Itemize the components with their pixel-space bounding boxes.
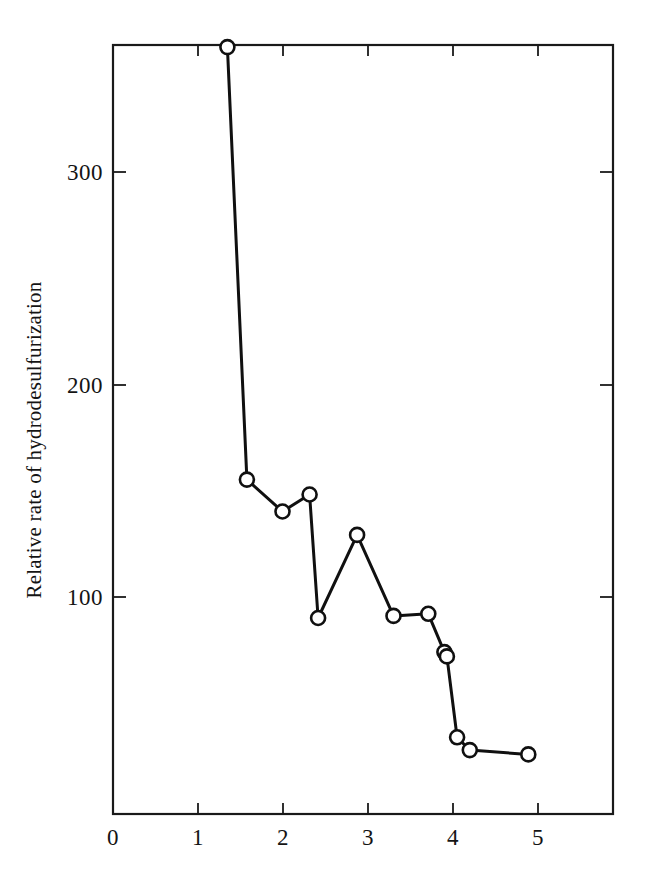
- x-tick-label-0: 0: [107, 825, 119, 850]
- y-axis-ticks-right: [600, 172, 613, 597]
- chart-figure: 0 1 2 3 4 5 100 200 300 Relative rate of…: [0, 0, 647, 879]
- data-series-line: [227, 47, 528, 754]
- x-tick-label-2: 2: [277, 825, 289, 850]
- y-tick-label-200: 200: [67, 373, 103, 398]
- x-tick-labels: 0 1 2 3 4 5: [107, 825, 544, 850]
- data-point: [463, 743, 477, 757]
- data-series-markers: [220, 40, 535, 761]
- data-point: [521, 747, 535, 761]
- x-tick-label-4: 4: [447, 825, 459, 850]
- x-axis-ticks-top: [198, 45, 538, 56]
- x-tick-label-5: 5: [532, 825, 544, 850]
- chart-canvas: 0 1 2 3 4 5 100 200 300 Relative rate of…: [0, 0, 647, 879]
- data-point: [450, 730, 464, 744]
- y-axis-ticks-left: [113, 172, 126, 597]
- plot-frame: [113, 45, 613, 814]
- data-point: [276, 505, 290, 519]
- x-tick-label-1: 1: [192, 825, 204, 850]
- data-point: [303, 488, 317, 502]
- data-point: [240, 473, 254, 487]
- data-point: [311, 611, 325, 625]
- x-tick-label-3: 3: [362, 825, 374, 850]
- x-axis-ticks-bottom: [113, 803, 538, 814]
- data-point: [440, 649, 454, 663]
- y-tick-label-300: 300: [67, 160, 103, 185]
- y-axis-title: Relative rate of hydrodesulfurization: [22, 281, 46, 598]
- data-point: [220, 40, 234, 54]
- data-point: [387, 609, 401, 623]
- y-tick-label-100: 100: [67, 585, 103, 610]
- y-tick-labels: 100 200 300: [67, 160, 103, 610]
- data-point: [421, 607, 435, 621]
- data-point: [350, 528, 364, 542]
